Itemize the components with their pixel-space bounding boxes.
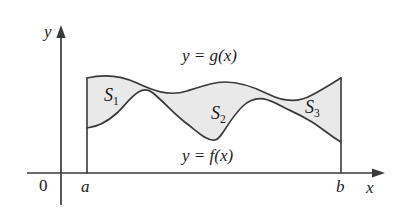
region-s3-base: S	[305, 97, 314, 117]
region-s1-sub: 1	[113, 95, 119, 107]
left-bound-label-a: a	[81, 177, 90, 197]
x-axis-arrowhead	[372, 168, 385, 177]
region-s1-base: S	[104, 85, 113, 105]
region-s3-label: S3	[305, 97, 320, 118]
origin-label: 0	[39, 176, 48, 196]
y-axis-label: y	[44, 22, 52, 42]
right-bound-label-b: b	[336, 177, 345, 197]
y-axis-arrowhead	[56, 25, 65, 38]
area-between-curves-figure: y x 0 a b y = g(x) y = f(x) S1 S2 S3	[0, 0, 399, 222]
lower-curve-label: y = f(x)	[182, 146, 233, 166]
region-s2-sub: 2	[220, 113, 226, 125]
region-s2-base: S	[211, 103, 220, 123]
region-s2-label: S2	[211, 103, 226, 124]
region-s1-label: S1	[104, 85, 119, 106]
region-s3-sub: 3	[314, 107, 320, 119]
x-axis-label: x	[366, 178, 374, 198]
upper-curve-label: y = g(x)	[182, 46, 237, 66]
